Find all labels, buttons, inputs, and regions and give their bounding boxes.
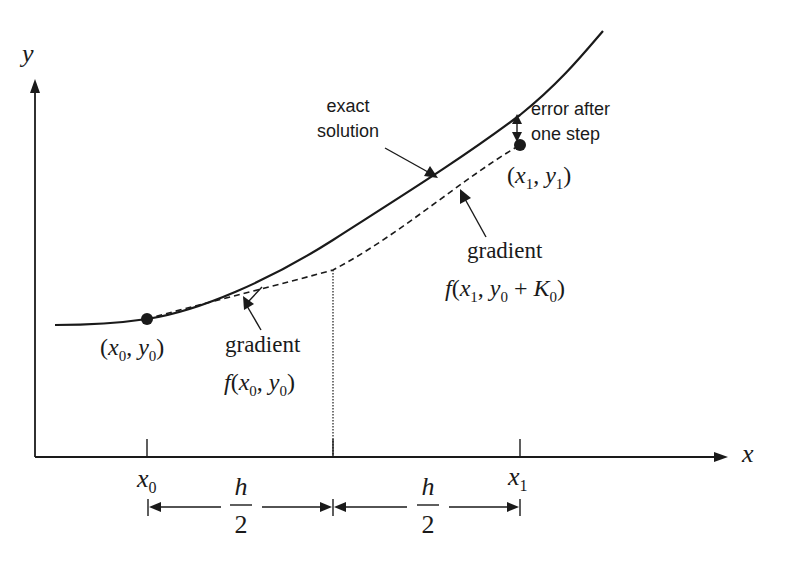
step-left-denominator: 2: [235, 510, 248, 539]
midpoint-method-diagram: y x x0 x1 h 2 h 2: [0, 0, 785, 568]
dim-arrow-right-icon: [507, 502, 519, 512]
label-end-point: (x1, y1): [507, 162, 571, 192]
step-right-numerator: h: [422, 472, 435, 501]
dim-arrow-mid-right-icon: [334, 502, 346, 512]
exact-label-line2: solution: [317, 121, 379, 141]
annotation-error: error after one step: [512, 99, 610, 144]
point-x1-y1: [514, 139, 526, 151]
exact-label-line1: exact: [326, 96, 369, 116]
label-start-point: (x0, y0): [100, 334, 164, 364]
x-axis-label: x: [741, 439, 754, 468]
dim-arrow-mid-left-icon: [320, 502, 332, 512]
ticks: x0 x1: [136, 439, 528, 496]
gradient2-formula: f(x1, y0 + K0): [445, 275, 565, 305]
step-left-numerator: h: [235, 472, 248, 501]
gradient1-pointer-line: [248, 287, 262, 302]
y-axis-arrow-icon: [30, 79, 40, 93]
y-axis-label: y: [19, 39, 34, 68]
gradient1-word: gradient: [225, 332, 301, 357]
step-right-denominator: 2: [422, 510, 435, 539]
gradient2-pointer-shaft: [465, 199, 486, 237]
axes: y x: [19, 39, 754, 468]
x-axis-arrow-icon: [714, 452, 728, 462]
gradient1-formula: f(x0, y0): [224, 369, 295, 399]
error-label-line2: one step: [531, 124, 600, 144]
gradient2-pointer-arrow-icon: [460, 189, 471, 204]
annotation-gradient-start: gradient f(x0, y0): [224, 287, 301, 399]
tick-label-x0: x0: [136, 464, 157, 496]
step-dimension: h 2 h 2: [148, 472, 520, 539]
gradient2-word: gradient: [467, 238, 543, 263]
error-label-line1: error after: [531, 99, 610, 119]
point-x0-y0: [141, 313, 153, 325]
exact-pointer-line: [385, 148, 428, 172]
annotation-gradient-mid: gradient f(x1, y0 + K0): [445, 189, 565, 305]
tick-label-x1: x1: [507, 462, 528, 494]
dim-arrow-left-icon: [149, 502, 161, 512]
exact-pointer-arrow-icon: [424, 166, 438, 178]
annotation-exact-solution: exact solution: [317, 96, 438, 178]
gradient1-pointer-shaft: [247, 306, 261, 330]
